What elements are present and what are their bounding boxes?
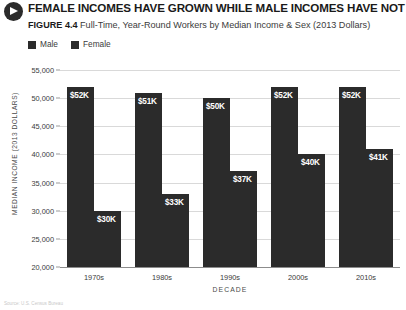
y-axis-tick-label: 45,000	[31, 122, 54, 131]
y-axis-tick-mark	[56, 267, 60, 268]
x-axis-tick-label: 1970s	[60, 273, 128, 282]
legend-swatch-female	[71, 41, 79, 49]
y-axis-tick-mark	[56, 154, 60, 155]
y-axis-tick-mark	[56, 238, 60, 239]
figure-caption: Full-Time, Year-Round Workers by Median …	[80, 20, 370, 30]
y-axis-tick-mark	[56, 98, 60, 99]
arrow-right-circle-icon	[4, 2, 23, 21]
y-axis-title: MEDIAN INCOME (2013 DOLLARS)	[11, 54, 18, 254]
x-axis-tick-label: 1990s	[196, 273, 264, 282]
y-axis-tick-mark	[56, 182, 60, 183]
figure-number: FIGURE 4.4	[28, 20, 78, 30]
y-axis-tick-label: 30,000	[31, 206, 54, 215]
legend-swatch-male	[28, 41, 36, 49]
x-axis-tick-label: 1980s	[128, 273, 196, 282]
x-axis-tick-label: 2010s	[332, 273, 400, 282]
chart-header: FEMALE INCOMES HAVE GROWN WHILE MALE INC…	[0, 0, 406, 58]
x-axis-tick-label: 2000s	[264, 273, 332, 282]
chart-legend: Male Female	[28, 40, 111, 49]
arrow-right-glyph	[10, 7, 18, 15]
y-axis-tick-labels: 55,00050,00045,00040,00035,00030,00025,0…	[18, 58, 54, 310]
page-title: FEMALE INCOMES HAVE GROWN WHILE MALE INC…	[28, 1, 405, 15]
legend-label-male: Male	[40, 40, 58, 49]
y-axis-tick-mark	[56, 210, 60, 211]
y-axis-tick-label: 20,000	[31, 263, 54, 272]
y-axis-tick-label: 35,000	[31, 178, 54, 187]
x-axis-title: DECADE	[60, 286, 400, 293]
x-axis-tick-labels: 1970s1980s1990s2000s2010s	[60, 58, 400, 310]
y-axis-tick-label: 25,000	[31, 234, 54, 243]
y-axis-tick-label: 55,000	[31, 66, 54, 75]
y-axis-tick-mark	[56, 70, 60, 71]
legend-item-male[interactable]: Male	[28, 40, 58, 49]
y-axis-tick-label: 50,000	[31, 94, 54, 103]
source-note: Source: U.S. Census Bureau	[4, 301, 63, 306]
chart-plot-area: MEDIAN INCOME (2013 DOLLARS) 55,00050,00…	[0, 58, 406, 310]
legend-label-female: Female	[83, 40, 111, 49]
legend-item-female[interactable]: Female	[71, 40, 111, 49]
figure-subtitle: FIGURE 4.4 Full-Time, Year-Round Workers…	[28, 19, 370, 31]
y-axis-tick-mark	[56, 126, 60, 127]
y-axis-tick-label: 40,000	[31, 150, 54, 159]
